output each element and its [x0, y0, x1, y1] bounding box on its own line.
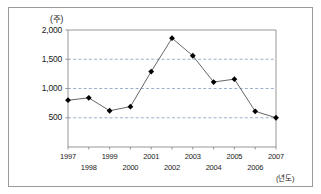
x-tick-label: 2004	[199, 163, 229, 172]
data-point-marker	[107, 108, 113, 114]
plot-area: (주) (년도) 5001,0001,5002,000 199719981999…	[0, 0, 321, 194]
y-tick-label: 1,000	[26, 83, 62, 93]
data-point-marker	[86, 95, 92, 101]
x-tick-label: 2000	[115, 163, 145, 172]
x-tick-label: 2006	[240, 163, 270, 172]
data-markers-group	[65, 35, 279, 120]
data-point-marker	[232, 76, 238, 82]
y-tick-label: 500	[26, 112, 62, 122]
data-point-marker	[128, 104, 134, 110]
y-tick-label: 2,000	[26, 25, 62, 35]
axis-lines-group	[66, 30, 277, 150]
x-tick-label: 2007	[261, 152, 291, 161]
x-tick-label: 1997	[53, 152, 83, 161]
data-point-marker	[65, 97, 71, 103]
gridlines-group	[68, 59, 276, 118]
series-line	[68, 38, 276, 118]
x-tick-label: 1999	[95, 152, 125, 161]
x-tick-label: 1998	[74, 163, 104, 172]
data-point-marker	[148, 69, 154, 75]
data-point-marker	[252, 108, 258, 114]
chart-figure: (주) (년도) 5001,0001,5002,000 199719981999…	[0, 0, 321, 194]
x-tick-label: 2002	[157, 163, 187, 172]
x-tick-label: 2005	[219, 152, 249, 161]
y-tick-label: 1,500	[26, 54, 62, 64]
x-tick-label: 2003	[178, 152, 208, 161]
x-tick-label: 2001	[136, 152, 166, 161]
data-point-marker	[273, 115, 279, 121]
data-series-group	[68, 38, 276, 118]
